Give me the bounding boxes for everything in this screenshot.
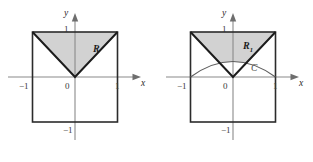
origin-label-right: 0 [223,81,228,91]
region-label-R: R [92,43,100,54]
y-tick-1-right: 1 [222,24,227,34]
origin-label-left: 0 [65,81,70,91]
x-axis-label-left: x [140,78,146,88]
curve-label-C: C [251,63,258,73]
x-axis-arrow-right [291,74,300,80]
x-tick-1-right: 1 [273,81,278,91]
y-tick-neg1-left: −1 [63,125,73,135]
y-tick-neg1-right: −1 [221,125,231,135]
x-tick-1-left: 1 [115,81,120,91]
y-axis-arrow-left [72,13,78,22]
math-figure-pair: y x 0 1 −1 −1 1 R [0,0,313,162]
x-axis-arrow-left [133,74,142,80]
x-axis-label-right: x [298,78,304,88]
x-tick-neg1-left: −1 [19,81,29,91]
y-axis-arrow-right [230,13,236,22]
x-tick-neg1-right: −1 [177,81,187,91]
y-axis-label-right: y [221,8,227,18]
figure-svg: y x 0 1 −1 −1 1 R [0,0,313,162]
y-tick-1-left: 1 [64,24,69,34]
y-axis-label-left: y [63,8,69,18]
region-label-R1-subscript: 1 [250,46,253,53]
right-panel: y x 0 1 −1 −1 1 R1 C [166,8,304,140]
left-panel: y x 0 1 −1 −1 1 R [8,8,146,140]
